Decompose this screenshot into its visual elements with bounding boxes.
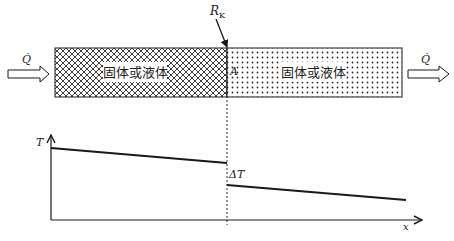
thermal-contact-diagram: 固体或液体 固体或液体 A RK Q̇ Q̇ T x ΔT [0,0,454,241]
left-medium-label: 固体或液体 [103,65,168,80]
contact-resistance-pointer-arrow [216,19,227,47]
temperature-graph: T x ΔT [36,135,422,232]
heat-flow-in-label: Q̇ [22,53,31,66]
left-medium-block: 固体或液体 [55,48,227,97]
x-axis-label: x [403,221,409,232]
heat-flow-out-label: Q̇ [421,53,430,66]
temperature-jump-label: ΔT [228,168,246,181]
temperature-line-right [227,185,406,200]
area-label: A [229,65,238,78]
right-medium-label: 固体或液体 [281,65,346,80]
contact-resistance-label: RK [209,4,226,20]
y-axis-label: T [36,136,45,149]
temperature-line-left [51,148,227,163]
heat-flow-out-arrow: Q̇ [408,53,449,82]
right-medium-block: 固体或液体 [227,48,402,97]
heat-flow-in-arrow: Q̇ [8,53,49,82]
